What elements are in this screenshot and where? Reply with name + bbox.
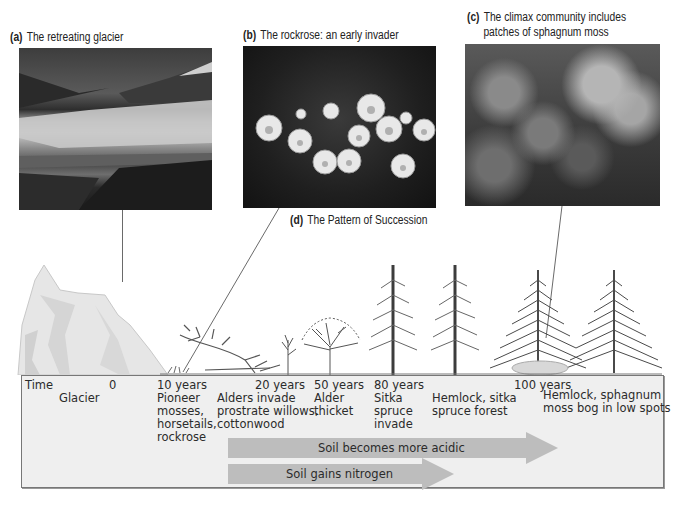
stage-0-desc: Glacier — [59, 392, 99, 406]
panel-b-title: The rockrose: an early invader — [260, 28, 398, 42]
sitka-spruce-icon — [369, 265, 479, 375]
cottonwood-sapling-icon — [282, 335, 296, 375]
rockrose-flowers-icon — [243, 46, 436, 208]
hemlock-trees-icon — [490, 270, 662, 375]
glacier-icon — [18, 265, 168, 375]
rockrose-photo — [243, 46, 436, 208]
prostrate-willow-icon — [180, 325, 280, 373]
arrow-soil-nitrogen: Soil gains nitrogen — [228, 464, 454, 484]
succession-illustration — [0, 235, 690, 375]
panel-a-caption: (a)The retreating glacier — [10, 30, 123, 45]
sphagnum-moss-photo — [465, 44, 660, 206]
stage-3-desc-2: thicket — [314, 405, 353, 419]
arrow-soil-nitrogen-label: Soil gains nitrogen — [286, 467, 393, 481]
pioneer-plants-icon — [168, 366, 189, 373]
stage-1-desc-4: rockrose — [157, 431, 206, 445]
arrow-head-icon — [526, 432, 558, 464]
glacier-photo — [19, 48, 212, 210]
panel-d-letter: (d) — [290, 213, 303, 227]
panel-b-letter: (b) — [243, 28, 256, 42]
stage-5-desc-2: spruce forest — [432, 405, 508, 419]
stage-4-desc-3: invade — [374, 418, 413, 432]
stage-6-desc-2: moss bog in low spots — [543, 402, 670, 416]
arrow-head-icon — [422, 458, 454, 490]
arrow-soil-acidic-label: Soil becomes more acidic — [318, 441, 465, 455]
glacier-scene-icon — [19, 48, 212, 210]
panel-c-title-line1: The climax community includes — [484, 10, 626, 24]
stage-0-time: 0 — [109, 379, 116, 393]
panel-a-title: The retreating glacier — [27, 30, 124, 44]
panel-b-caption: (b)The rockrose: an early invader — [243, 28, 399, 43]
alder-thicket-icon — [302, 318, 360, 375]
succession-timeline-box: Time 0 Glacier 10 years Pioneer mosses, … — [21, 375, 664, 488]
arrow-soil-acidic: Soil becomes more acidic — [228, 438, 558, 458]
panel-d-title: The Pattern of Succession — [307, 213, 427, 227]
panel-d-caption: (d)The Pattern of Succession — [290, 213, 427, 228]
panel-c-title-line2: patches of sphagnum moss — [483, 25, 608, 39]
panel-a-letter: (a) — [10, 30, 23, 44]
stage-2-desc-3: cottonwood — [217, 418, 284, 432]
time-label: Time — [25, 379, 53, 393]
panel-c-caption: (c)The climax community includes patches… — [467, 10, 626, 40]
panel-c-letter: (c) — [467, 10, 480, 24]
